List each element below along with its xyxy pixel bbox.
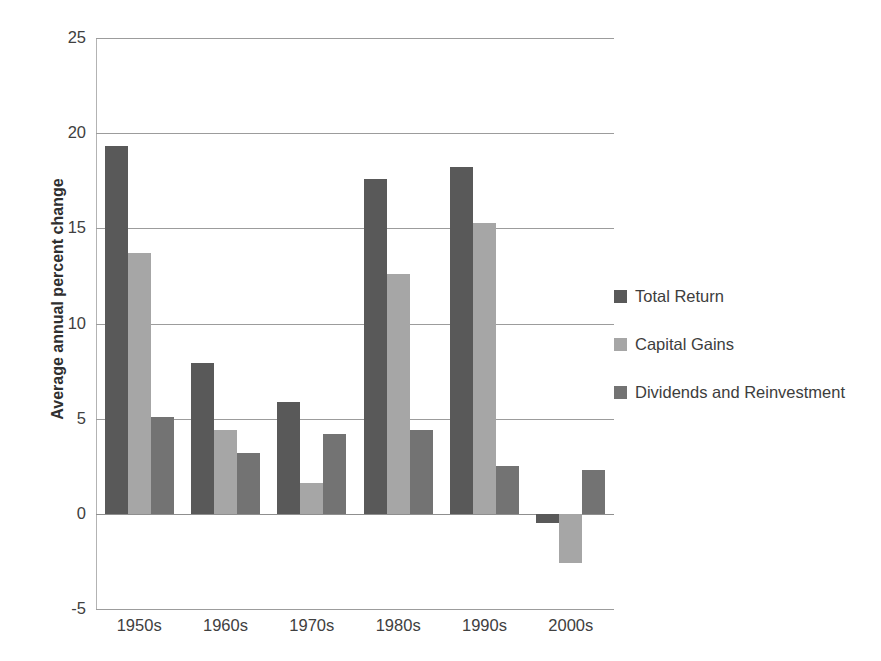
bar	[151, 417, 174, 514]
y-tick-label: -5	[40, 600, 86, 617]
legend-label: Dividends and Reinvestment	[635, 383, 845, 402]
chart-legend: Total ReturnCapital GainsDividends and R…	[614, 272, 876, 416]
x-tick-label-1980s: 1980s	[355, 616, 441, 635]
gridline-neg5	[96, 609, 614, 610]
legend-swatch-icon	[614, 386, 627, 399]
x-tick-label-1990s: 1990s	[441, 616, 527, 635]
legend-label: Total Return	[635, 287, 724, 306]
x-tick-label-1970s: 1970s	[269, 616, 355, 635]
bar	[450, 167, 473, 513]
legend-item: Capital Gains	[614, 320, 876, 368]
y-tick-label: 20	[40, 124, 86, 141]
bar-group	[528, 38, 614, 609]
y-tick-label: 5	[40, 410, 86, 427]
bar	[191, 363, 214, 513]
bar	[410, 430, 433, 514]
bar-chart: Average annual percent change 2520151050…	[0, 0, 881, 661]
y-tick-label: 25	[40, 29, 86, 46]
y-tick-label: 10	[40, 315, 86, 332]
plot-area	[96, 38, 614, 609]
y-axis-tick-labels: 2520151050-5	[20, 0, 86, 661]
bar	[277, 402, 300, 514]
bar-group	[182, 38, 268, 609]
x-axis-tick-labels: 1950s1960s1970s1980s1990s2000s	[96, 616, 614, 646]
bar	[214, 430, 237, 514]
bar	[323, 434, 346, 514]
bar	[105, 146, 128, 513]
bar-group	[269, 38, 355, 609]
bar	[387, 274, 410, 514]
bar	[582, 470, 605, 514]
y-tick-label: 0	[40, 505, 86, 522]
legend-item: Dividends and Reinvestment	[614, 368, 876, 416]
x-tick-label-1950s: 1950s	[96, 616, 182, 635]
bar-group	[355, 38, 441, 609]
y-tick-label: 15	[40, 219, 86, 236]
legend-item: Total Return	[614, 272, 876, 320]
bar	[536, 514, 559, 524]
bar	[237, 453, 260, 514]
legend-label: Capital Gains	[635, 335, 734, 354]
bars-layer	[96, 38, 614, 609]
legend-swatch-icon	[614, 338, 627, 351]
bar	[559, 514, 582, 563]
bar	[496, 466, 519, 514]
x-tick-label-2000s: 2000s	[528, 616, 614, 635]
legend-swatch-icon	[614, 290, 627, 303]
bar-group	[96, 38, 182, 609]
x-tick-label-1960s: 1960s	[182, 616, 268, 635]
bar-group	[441, 38, 527, 609]
bar	[364, 179, 387, 514]
bar	[473, 223, 496, 514]
bar	[128, 253, 151, 514]
bar	[300, 483, 323, 513]
